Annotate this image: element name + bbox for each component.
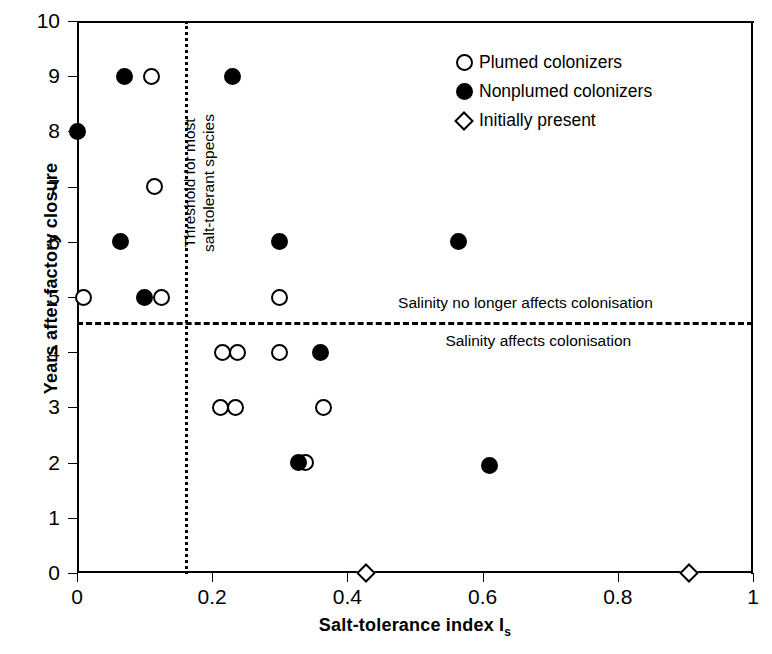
threshold-annotation-line1: Threshold for most — [181, 118, 198, 247]
legend-label: Nonplumed colonizers — [479, 81, 652, 102]
open-circle-marker — [271, 289, 288, 306]
open-circle-marker — [143, 68, 160, 85]
x-axis-title: Salt-tolerance index Is — [77, 615, 753, 639]
y-tick-10 — [68, 21, 77, 22]
x-tick-0.4 — [347, 573, 348, 582]
legend-item-0: Plumed colonizers — [455, 48, 652, 77]
y-tick-7 — [68, 187, 77, 188]
legend-label: Plumed colonizers — [479, 52, 622, 73]
y-tick-2 — [68, 463, 77, 464]
open-circle-marker — [229, 344, 246, 361]
y-tick-9 — [68, 76, 77, 77]
y-tick-4 — [68, 352, 77, 353]
open-circle-marker — [212, 399, 229, 416]
y-tick-6 — [68, 242, 77, 243]
open-circle-marker — [214, 344, 231, 361]
salinity-below-annotation: Salinity affects colonisation — [445, 332, 631, 349]
y-axis-title: Years after factory closure — [41, 84, 62, 474]
x-tick-label-0.2: 0.2 — [177, 586, 247, 608]
filled-circle-marker — [456, 83, 473, 100]
open-circle-marker — [75, 289, 92, 306]
x-tick-label-1: 1 — [718, 586, 772, 608]
x-axis-title-text: Salt-tolerance index I — [319, 615, 504, 635]
salinity-reference-line — [77, 322, 753, 325]
x-tick-0.2 — [212, 573, 213, 582]
legend-symbol — [455, 53, 479, 73]
y-tick-label-1: 1 — [0, 507, 60, 528]
x-tick-label-0.8: 0.8 — [583, 586, 653, 608]
threshold-annotation: Threshold for mostsalt-tolerant species — [180, 93, 218, 273]
threshold-annotation-line2: salt-tolerant species — [200, 114, 217, 252]
plot-frame-right — [751, 21, 753, 574]
chart-legend: Plumed colonizersNonplumed colonizersIni… — [455, 48, 652, 135]
open-diamond-marker — [454, 111, 474, 131]
open-circle-marker — [153, 289, 170, 306]
filled-circle-marker — [116, 68, 133, 85]
x-tick-0 — [77, 573, 78, 582]
y-tick-1 — [68, 518, 77, 519]
x-tick-label-0.4: 0.4 — [312, 586, 382, 608]
plot-frame-top — [77, 21, 754, 23]
scatter-chart-figure: 012345678910 00.20.40.60.81 Years after … — [0, 0, 772, 654]
y-tick-0 — [68, 573, 77, 574]
open-circle-marker — [456, 54, 473, 71]
x-tick-label-0: 0 — [42, 586, 112, 608]
filled-circle-marker — [136, 289, 153, 306]
y-tick-3 — [68, 407, 77, 408]
legend-symbol — [455, 111, 479, 131]
y-tick-label-10: 10 — [0, 10, 60, 31]
x-tick-label-0.6: 0.6 — [448, 586, 518, 608]
y-tick-label-0: 0 — [0, 562, 60, 583]
open-circle-marker — [315, 399, 332, 416]
legend-symbol — [455, 82, 479, 102]
x-axis-title-subscript: s — [504, 625, 511, 639]
x-tick-0.8 — [618, 573, 619, 582]
filled-circle-marker — [312, 344, 329, 361]
filled-circle-marker — [481, 457, 498, 474]
legend-item-2: Initially present — [455, 106, 652, 135]
filled-circle-marker — [224, 68, 241, 85]
legend-item-1: Nonplumed colonizers — [455, 77, 652, 106]
open-circle-marker — [271, 344, 288, 361]
filled-circle-marker — [69, 123, 86, 140]
legend-label: Initially present — [479, 110, 596, 131]
x-tick-1 — [753, 573, 754, 582]
salinity-above-annotation: Salinity no longer affects colonisation — [398, 294, 653, 311]
x-tick-0.6 — [483, 573, 484, 582]
